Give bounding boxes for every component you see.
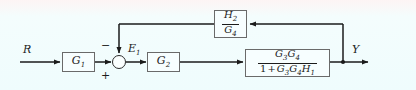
signal-label-error-e1: E1 bbox=[128, 43, 141, 57]
signal-label-output-y: Y bbox=[352, 44, 359, 55]
feedback-denominator: G4 bbox=[222, 25, 239, 38]
feedback-numerator: H2 bbox=[222, 10, 239, 23]
inner-loop-fraction: G3G4 1 + G3G4H1 bbox=[258, 49, 317, 78]
block-inner-loop-transfer-function[interactable]: G3G4 1 + G3G4H1 bbox=[245, 49, 330, 77]
block-diagram-canvas: G1 G2 G3G4 1 + G3G4H1 H2 G4 bbox=[0, 0, 416, 90]
block-g1-label: G1 bbox=[72, 55, 85, 69]
block-g2[interactable]: G2 bbox=[147, 52, 180, 72]
signal-label-input-r: R bbox=[23, 44, 31, 55]
inner-loop-numerator: G3G4 bbox=[258, 49, 317, 62]
block-g2-label: G2 bbox=[157, 55, 170, 69]
block-g1[interactable]: G1 bbox=[62, 52, 95, 72]
feedback-fraction: H2 G4 bbox=[222, 10, 239, 39]
summing-junction-minus-sign: − bbox=[101, 40, 110, 51]
summing-junction-plus-sign: + bbox=[101, 70, 110, 81]
inner-loop-denominator: 1 + G3G4H1 bbox=[258, 64, 317, 77]
block-feedback-h2-over-g4[interactable]: H2 G4 bbox=[214, 10, 247, 38]
summing-junction[interactable] bbox=[112, 55, 126, 69]
